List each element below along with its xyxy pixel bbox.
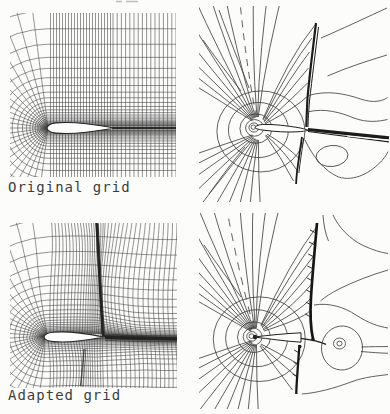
original-grid-mesh-plot (0, 0, 195, 207)
grid-adaptation-figure: Original grid Adapted grid (0, 0, 390, 414)
original-grid-contour-plot (195, 0, 390, 207)
adapted-grid-contour-plot (195, 207, 390, 414)
adapted-grid-label: Adapted grid (8, 387, 121, 403)
original-grid-label: Original grid (8, 179, 131, 195)
adapted-grid-mesh-plot (0, 207, 195, 414)
